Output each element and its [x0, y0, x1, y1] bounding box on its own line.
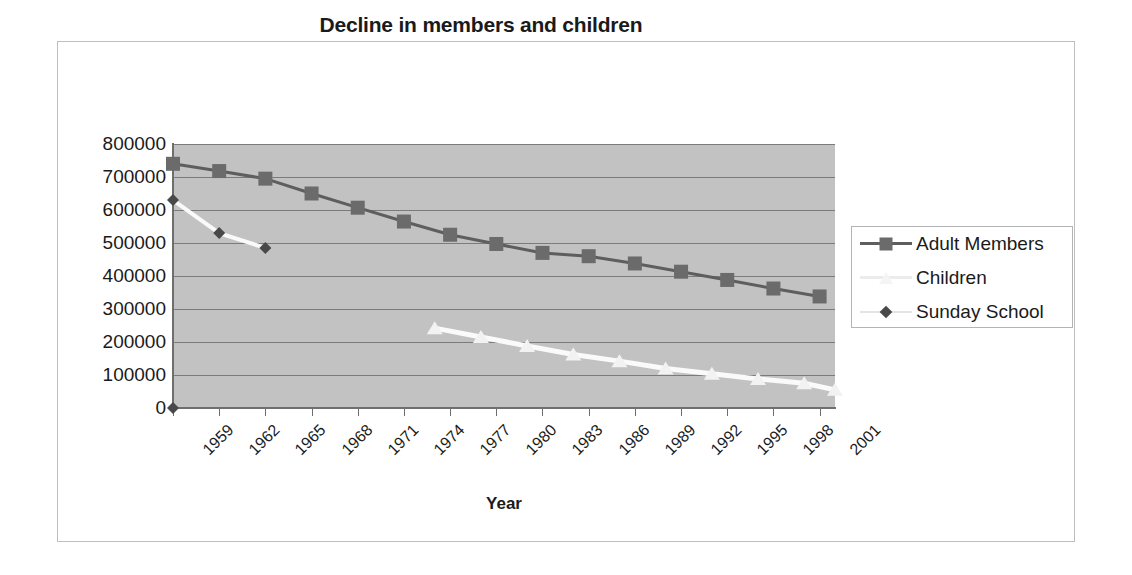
square-marker-icon [880, 238, 893, 251]
legend-item-children[interactable]: Children [852, 261, 1072, 295]
legend-key-sunday-school [858, 302, 914, 322]
legend-item-adult-members[interactable]: Adult Members [852, 227, 1072, 261]
legend-label-sunday-school: Sunday School [916, 301, 1044, 323]
chart-legend: Adult Members Children Sunday School [851, 226, 1073, 328]
legend-key-adult-members [858, 234, 914, 254]
triangle-marker-icon [879, 272, 893, 284]
chart-title: Decline in members and children [0, 13, 1132, 37]
x-axis-title: Year [173, 494, 835, 514]
legend-item-sunday-school[interactable]: Sunday School [852, 295, 1072, 329]
legend-label-children: Children [916, 267, 987, 289]
legend-label-adult-members: Adult Members [916, 233, 1044, 255]
diamond-marker-icon [880, 306, 893, 319]
legend-key-children [858, 268, 914, 288]
